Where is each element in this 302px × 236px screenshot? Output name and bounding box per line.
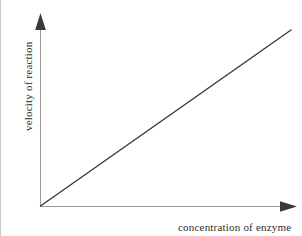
data-line-series-velocity (41, 30, 292, 206)
chart-figure: concentration of enzyme velocity of reac… (0, 0, 302, 236)
x-axis-arrowhead-icon (280, 201, 297, 212)
y-axis-arrowhead-icon (35, 13, 46, 30)
y-axis-group (35, 13, 46, 206)
x-axis-label: concentration of enzyme (178, 221, 291, 233)
plot-area (1, 0, 302, 236)
y-axis-label: velocity of reaction (22, 41, 34, 131)
x-axis-group (40, 201, 297, 212)
